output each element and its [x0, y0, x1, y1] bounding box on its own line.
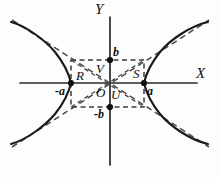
origin-label: O — [96, 86, 105, 99]
point-label-U: U — [111, 88, 120, 101]
hyperbola-branch-left-upper — [11, 22, 71, 83]
figure-canvas — [0, 0, 219, 177]
hyperbola-figure: Y X R S V U O -a a b -b — [0, 0, 219, 177]
y-axis-label: Y — [95, 2, 103, 17]
tick-label-a: a — [147, 85, 153, 97]
tick-label-b: b — [113, 46, 119, 58]
point-label-R: R — [76, 69, 84, 82]
tick-label-neg-b: -b — [94, 108, 104, 120]
hyperbola-branch-right-lower — [144, 83, 208, 144]
point-label-V: V — [96, 62, 104, 75]
covertex-bottom-dot — [107, 104, 113, 110]
tick-label-neg-a: -a — [55, 85, 65, 97]
point-label-S: S — [133, 67, 140, 80]
vertex-left-dot — [68, 80, 74, 86]
x-axis-label: X — [196, 66, 205, 81]
